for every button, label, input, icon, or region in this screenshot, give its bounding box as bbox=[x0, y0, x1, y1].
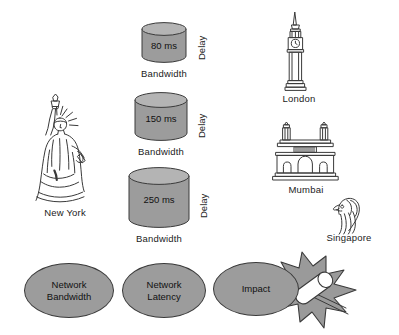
cylinder-150ms-value: 150 ms bbox=[133, 113, 189, 124]
cylinder-250ms-bandwidth-label: Bandwidth bbox=[121, 233, 197, 244]
oval-network-latency-text: Network Latency bbox=[122, 263, 206, 318]
oval-line-2: Latency bbox=[147, 291, 180, 303]
landmark-new-york bbox=[22, 94, 108, 206]
landmark-singapore bbox=[328, 197, 368, 235]
merlion-icon bbox=[328, 197, 368, 235]
landmark-mumbai bbox=[268, 122, 344, 182]
landmark-london bbox=[278, 12, 320, 92]
oval-network-bandwidth[interactable]: Network Bandwidth bbox=[24, 263, 114, 318]
oval-line-1: Network bbox=[52, 279, 87, 291]
statue-of-liberty-icon bbox=[22, 94, 108, 206]
oval-line-1: Impact bbox=[242, 283, 271, 295]
cylinder-250ms-value: 250 ms bbox=[127, 194, 191, 205]
delay-label-3: Delay bbox=[198, 194, 209, 218]
gateway-of-india-icon bbox=[268, 122, 344, 182]
oval-network-bandwidth-text: Network Bandwidth bbox=[24, 263, 114, 318]
landmark-singapore-label: Singapore bbox=[304, 232, 394, 243]
landmark-new-york-label: New York bbox=[12, 207, 118, 218]
oval-impact-text: Impact bbox=[213, 262, 299, 316]
oval-line-2: Bandwidth bbox=[47, 291, 91, 303]
delay-label-1: Delay bbox=[196, 36, 207, 60]
big-ben-icon bbox=[278, 12, 320, 92]
cylinder-150ms-bandwidth-label: Bandwidth bbox=[123, 146, 199, 157]
delay-label-2: Delay bbox=[196, 114, 207, 138]
landmark-london-label: London bbox=[266, 93, 332, 104]
oval-impact[interactable]: Impact bbox=[213, 262, 299, 316]
cylinder-80ms-value: 80 ms bbox=[140, 40, 188, 51]
oval-line-1: Network bbox=[147, 279, 182, 291]
oval-network-latency[interactable]: Network Latency bbox=[122, 263, 206, 318]
landmark-mumbai-label: Mumbai bbox=[272, 184, 340, 195]
cylinder-80ms-bandwidth-label: Bandwidth bbox=[126, 68, 202, 79]
diagram-canvas: New York 80 ms Delay Bandwidth 150 ms De… bbox=[0, 0, 399, 335]
